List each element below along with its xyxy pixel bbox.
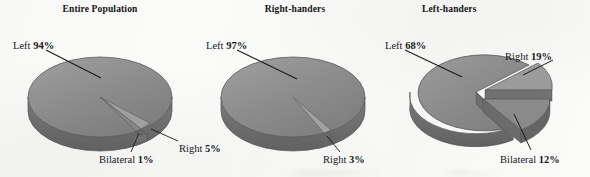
pie-label-bilateral: Bilateral 1% — [99, 155, 154, 166]
pie-label-right-value: 19% — [531, 51, 552, 62]
pie-chart-right-handers — [200, 0, 390, 177]
pie-label-left-value: 68% — [405, 40, 426, 51]
pie-label-left-value: 97% — [226, 40, 247, 51]
pie-label-right: Right 19% — [505, 52, 552, 63]
pie-chart-left-handers — [390, 0, 590, 177]
pie-label-right: Right 3% — [323, 155, 365, 166]
pie-label-left: Left 94% — [13, 41, 54, 52]
pie-panel-left-handers: Left-handers — [390, 0, 590, 177]
pie-label-right-value: 3% — [349, 154, 365, 165]
pie-label-left: Left 97% — [206, 41, 247, 52]
pie-label-right-prefix: Right — [323, 154, 349, 165]
pie-panel-entire-population: Entire Population Left — [0, 0, 200, 177]
pie-label-left: Left 68% — [385, 41, 426, 52]
pie-label-bilateral-prefix: Bilateral — [500, 154, 539, 165]
pie-label-left-prefix: Left — [13, 40, 33, 51]
pie-panel-right-handers: Right-handers Left 97% Right 3% — [200, 0, 390, 177]
pie-label-bilateral: Bilateral 12% — [500, 155, 560, 166]
pie-label-right-prefix: Right — [505, 51, 531, 62]
pie-label-left-prefix: Left — [206, 40, 226, 51]
pie-chart-entire-population — [0, 0, 200, 177]
pie-label-left-value: 94% — [33, 40, 54, 51]
scan-bottom-artifact — [0, 169, 590, 177]
pie-label-bilateral-prefix: Bilateral — [99, 154, 138, 165]
pie-label-bilateral-value: 12% — [539, 154, 560, 165]
pie-label-left-prefix: Left — [385, 40, 405, 51]
pie-label-bilateral-value: 1% — [138, 154, 154, 165]
